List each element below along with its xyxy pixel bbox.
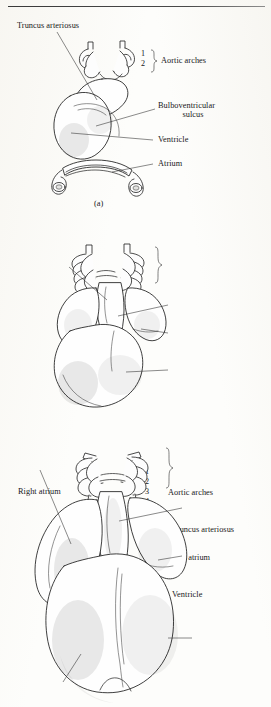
arch-number-a-1: 1 (141, 50, 145, 59)
panel-a-drawing (0, 0, 271, 225)
aortic-arch-left-b (72, 245, 99, 294)
label-truncus-arteriosus-a: Truncus arteriosus (17, 21, 79, 31)
panel-a: 1 2 Aortic arches Truncus arteriosus Bul… (0, 0, 271, 225)
label-ventricle-a: Ventricle (158, 135, 188, 145)
arch-brace-a (151, 50, 157, 72)
aortic-arch-right-a (113, 41, 135, 77)
label-atrium-a: Atrium (158, 159, 182, 169)
panel-c-drawing (0, 440, 271, 707)
caption-a: (a) (94, 199, 103, 208)
arch-brace-c (166, 448, 173, 488)
arch-brace-b (155, 247, 162, 283)
aortic-arch-left-a (79, 42, 100, 78)
label-aortic-arches-a: Aortic arches (161, 56, 206, 66)
label-bulboventricular-sulcus-a-line2: sulcus (158, 110, 228, 120)
panel-b: 1 2 3 4 Aortic arches Right atrium Trunc… (0, 225, 271, 440)
panel-c: 3 4 6 Aortic arches Right atrium Truncus… (0, 440, 271, 707)
atrium-a (63, 160, 132, 176)
arch-number-a-2: 2 (141, 60, 145, 69)
figure-page: 1 2 Aortic arches Truncus arteriosus Bul… (0, 0, 271, 707)
panel-b-drawing (0, 225, 271, 440)
